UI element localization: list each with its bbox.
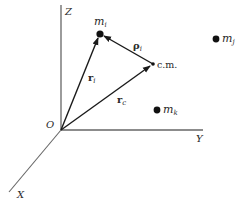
vector-r-i-label: ri [88, 72, 96, 85]
mass-j-dot [213, 36, 220, 43]
vector-rho-i-label: ρi [133, 40, 142, 53]
center-of-mass-diagram: Z Y X O mi mj mk c.m. ri rc ρi [0, 0, 242, 206]
vector-rho-i [104, 36, 153, 64]
mass-i-label: mi [94, 15, 107, 29]
vector-r-c-label: rc [117, 94, 126, 107]
center-of-mass-dot [151, 62, 155, 66]
mass-k-label: mk [163, 103, 178, 117]
origin-label: O [46, 119, 54, 130]
z-axis-label: Z [64, 6, 73, 17]
mass-k-dot [154, 107, 161, 114]
mass-i-dot [96, 30, 103, 37]
mass-j-label: mj [222, 32, 235, 46]
y-axis-label: Y [196, 133, 204, 144]
x-axis-label: X [16, 189, 25, 200]
center-of-mass-label: c.m. [157, 59, 177, 70]
x-axis [9, 130, 61, 192]
